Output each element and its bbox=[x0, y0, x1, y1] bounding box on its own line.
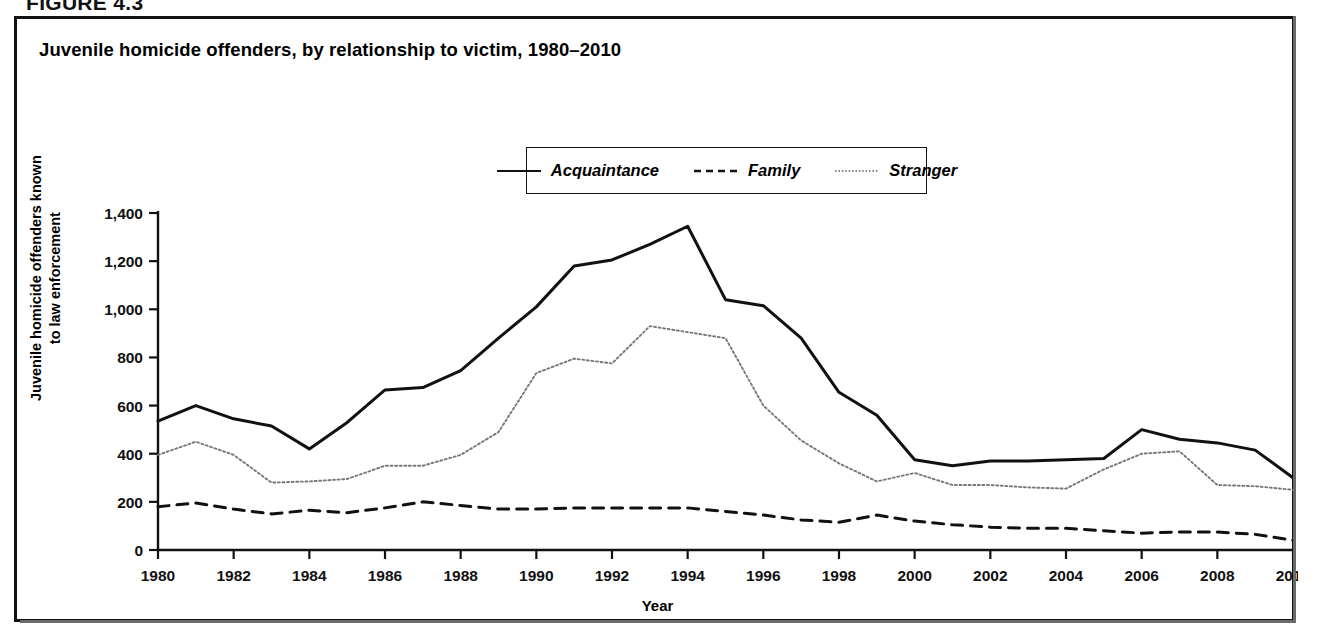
x-axis-tick-label: 1994 bbox=[670, 567, 705, 584]
x-axis-title: Year bbox=[17, 597, 1298, 614]
figure-caption: FIGURE 4.3 bbox=[26, 0, 143, 15]
x-axis-tick-label: 2010 bbox=[1276, 567, 1298, 584]
plot-area: 02004006008001,0001,2001,400198019821984… bbox=[17, 19, 1298, 625]
y-axis-tick-label: 1,400 bbox=[104, 205, 143, 222]
x-axis-tick-label: 1988 bbox=[443, 567, 478, 584]
y-axis-tick-label: 200 bbox=[117, 494, 143, 511]
line-chart-svg: 02004006008001,0001,2001,400198019821984… bbox=[17, 19, 1298, 625]
x-axis-tick-label: 1996 bbox=[746, 567, 781, 584]
x-axis-tick-label: 2002 bbox=[973, 567, 1007, 584]
x-axis-tick-label: 1992 bbox=[595, 567, 629, 584]
y-axis-tick-label: 1,000 bbox=[104, 301, 143, 318]
x-axis-tick-label: 1990 bbox=[519, 567, 553, 584]
x-axis-tick-label: 2006 bbox=[1124, 567, 1159, 584]
figure-root: FIGURE 4.3 Juvenile homicide offenders, … bbox=[0, 0, 1344, 633]
x-axis-tick-label: 2004 bbox=[1049, 567, 1084, 584]
x-axis-tick-label: 1984 bbox=[292, 567, 327, 584]
series-acquaintance bbox=[158, 226, 1293, 478]
x-axis-tick-label: 2008 bbox=[1200, 567, 1235, 584]
x-axis-tick-label: 1986 bbox=[368, 567, 403, 584]
series-stranger bbox=[158, 326, 1293, 490]
y-axis-title-line2: to law enforcement bbox=[46, 123, 65, 433]
y-axis-tick-label: 600 bbox=[117, 398, 143, 415]
x-axis-tick-label: 1982 bbox=[216, 567, 250, 584]
y-axis-tick-label: 800 bbox=[117, 349, 143, 366]
series-family bbox=[158, 502, 1293, 541]
x-axis-tick-label: 2000 bbox=[897, 567, 931, 584]
y-axis-tick-label: 0 bbox=[134, 542, 143, 559]
y-axis-title-line1: Juvenile homicide offenders known bbox=[28, 155, 44, 401]
x-axis-tick-label: 1980 bbox=[141, 567, 175, 584]
y-axis-title: Juvenile homicide offenders known to law… bbox=[27, 123, 65, 433]
y-axis-tick-label: 400 bbox=[117, 446, 143, 463]
x-axis-tick-label: 1998 bbox=[822, 567, 857, 584]
y-axis-tick-label: 1,200 bbox=[104, 253, 143, 270]
figure-frame: Juvenile homicide offenders, by relation… bbox=[14, 16, 1295, 622]
